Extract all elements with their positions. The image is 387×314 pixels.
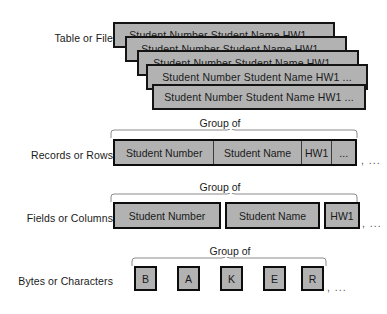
fields-trailing-ellipsis: , ... [362, 217, 382, 229]
table-card-text: Student Number Student Name HW1 ... [164, 91, 354, 103]
row-label-fields-or-columns: Fields or Columns [0, 212, 113, 224]
record-cell: ... [332, 141, 355, 164]
byte-box: K [220, 266, 243, 291]
table-card-text: Student Number Student Name HW1 ... [162, 71, 352, 83]
byte-box: E [263, 266, 286, 291]
group-caption-records: Group of [170, 117, 270, 129]
field-box: Student Number [113, 202, 221, 229]
record-cell: Student Name [214, 141, 302, 164]
row-label-bytes-or-characters: Bytes or Characters [0, 275, 113, 287]
field-box: Student Name [225, 202, 320, 229]
byte-box: R [301, 266, 324, 291]
brace-records [110, 129, 358, 139]
bytes-trailing-ellipsis: , ... [327, 281, 347, 293]
group-caption-fields: Group of [170, 181, 270, 193]
records-trailing-ellipsis: , ... [361, 154, 381, 166]
row-label-records-or-rows: Records or Rows [0, 149, 113, 161]
group-caption-bytes: Group of [180, 245, 280, 257]
table-card-front: Student Number Student Name HW1 ... [152, 84, 366, 110]
data-hierarchy-diagram: Table or File Student Number Student Nam… [0, 0, 387, 314]
row-label-table-or-file: Table or File [0, 32, 113, 44]
record-cell: HW1 [302, 141, 333, 164]
byte-box: B [134, 266, 157, 291]
record-cell: Student Number [115, 141, 214, 164]
record-box: Student Number Student Name HW1 ... [113, 139, 357, 166]
field-box: HW1 [324, 202, 360, 229]
byte-box: A [177, 266, 200, 291]
